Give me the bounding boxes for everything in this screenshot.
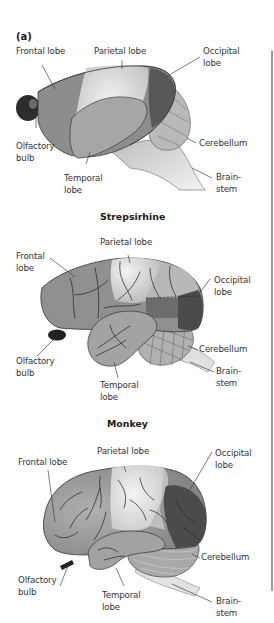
monkey-olfactory-bulb-label: Olfactory bulb xyxy=(18,575,57,598)
strepsirhine-occipital-lobe-label: Occipital lobe xyxy=(214,275,251,298)
monkey-brainstem-label: Brain- stem xyxy=(216,596,241,619)
strepsirhine-cerebellum-label: Cerebellum xyxy=(199,344,247,356)
monkey-frontal-lobe-label: Frontal lobe xyxy=(18,457,67,469)
strepsirhine-olfactory-bulb-label: Olfactory bulb xyxy=(16,356,55,379)
strepsirhine-parietal-lobe-label: Parietal lobe xyxy=(100,237,152,249)
strepsirhine-brainstem-label: Brain- stem xyxy=(216,366,241,389)
brain1-olfactory-bulb-label: Olfactory bulb xyxy=(16,141,55,164)
monkey-cerebellum-label: Cerebellum xyxy=(201,552,249,564)
brain1-frontal-lobe-label: Frontal lobe xyxy=(16,46,65,58)
monkey-temporal-lobe-label: Temporal lobe xyxy=(102,590,141,613)
monkey-parietal-lobe-label: Parietal lobe xyxy=(97,446,149,458)
brain1-occipital-lobe-label: Occipital lobe xyxy=(203,46,240,69)
monkey-occipital-lobe-label: Occipital lobe xyxy=(215,448,252,471)
brain1-brainstem-label: Brain- stem xyxy=(216,172,241,195)
brain-illustration-1 xyxy=(0,0,274,200)
brain1-cerebellum-label: Cerebellum xyxy=(199,138,247,150)
brain1-temporal-lobe-label: Temporal lobe xyxy=(64,173,103,196)
strepsirhine-frontal-lobe-label: Frontal lobe xyxy=(16,251,45,274)
brain1-parietal-lobe-label: Parietal lobe xyxy=(94,46,146,58)
